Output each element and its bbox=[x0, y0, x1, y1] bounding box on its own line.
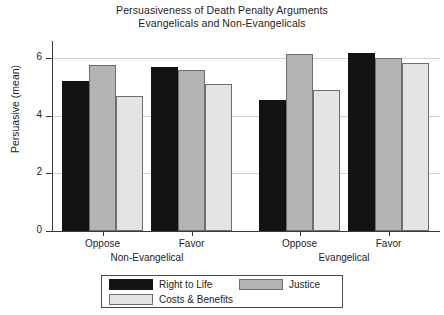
legend-swatch-icon bbox=[109, 279, 153, 290]
legend-swatch-icon bbox=[239, 279, 283, 290]
x-group-label: Non-Evangelical bbox=[67, 252, 227, 263]
bar bbox=[62, 81, 89, 231]
chart-title-block: Persuasiveness of Death Penalty Argument… bbox=[0, 4, 444, 30]
chart-subtitle: Evangelicals and Non-Evangelicals bbox=[0, 17, 444, 30]
bar bbox=[348, 53, 375, 231]
legend-swatch-icon bbox=[109, 294, 153, 305]
x-tick-label: Oppose bbox=[58, 238, 148, 249]
bar bbox=[116, 96, 143, 231]
x-tick-mark bbox=[103, 231, 104, 236]
x-group-label: Evangelical bbox=[264, 252, 424, 263]
bars-layer bbox=[52, 41, 440, 231]
bar bbox=[205, 84, 232, 231]
legend-label: Right to Life bbox=[159, 279, 212, 290]
x-tick-label: Oppose bbox=[255, 238, 345, 249]
bar bbox=[151, 67, 178, 231]
bar bbox=[259, 100, 286, 231]
y-tick-label: 0 bbox=[0, 224, 42, 235]
x-tick-mark bbox=[389, 231, 390, 236]
bar bbox=[375, 58, 402, 231]
x-axis-line bbox=[52, 231, 440, 232]
bar bbox=[402, 63, 429, 231]
legend-item-right-to-life: Right to Life bbox=[109, 279, 212, 290]
legend-item-costs-benefits: Costs & Benefits bbox=[109, 294, 233, 305]
x-tick-mark bbox=[192, 231, 193, 236]
legend-item-justice: Justice bbox=[239, 279, 320, 290]
page-title: Persuasiveness of Death Penalty Argument… bbox=[0, 4, 444, 17]
legend-label: Justice bbox=[289, 279, 320, 290]
y-tick-label: 6 bbox=[0, 51, 42, 62]
legend-label: Costs & Benefits bbox=[159, 294, 233, 305]
bar bbox=[286, 54, 313, 231]
chart-figure: Persuasiveness of Death Penalty Argument… bbox=[0, 0, 444, 315]
y-tick-label: 4 bbox=[0, 109, 42, 120]
bar bbox=[89, 65, 116, 231]
bar bbox=[313, 90, 340, 231]
y-tick-label: 2 bbox=[0, 166, 42, 177]
x-tick-label: Favor bbox=[344, 238, 434, 249]
x-tick-mark bbox=[300, 231, 301, 236]
chart-legend: Right to Life Justice Costs & Benefits bbox=[101, 275, 343, 308]
x-tick-label: Favor bbox=[147, 238, 237, 249]
bar bbox=[178, 70, 205, 231]
